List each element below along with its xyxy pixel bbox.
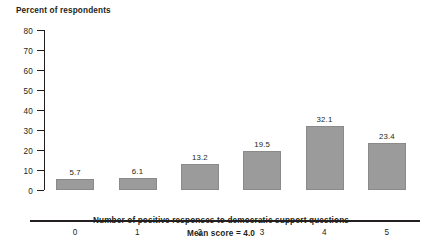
y-tick: 20 xyxy=(37,150,44,151)
y-tick: 70 xyxy=(37,50,44,51)
y-tick: 30 xyxy=(37,130,44,131)
bar-chart: Percent of respondents 01020304050607080… xyxy=(0,0,442,249)
y-tick-label: 0 xyxy=(28,186,33,195)
bar-value-label: 13.2 xyxy=(192,153,208,162)
y-tick-label: 60 xyxy=(23,66,33,75)
mean-score-note: Mean score = 4.0 xyxy=(0,229,442,238)
y-tick-label: 10 xyxy=(23,166,33,175)
y-axis-title: Percent of respondents xyxy=(16,6,111,15)
y-tick: 80 xyxy=(37,30,44,31)
y-axis-line xyxy=(44,30,45,190)
y-tick: 10 xyxy=(37,170,44,171)
y-tick-label: 80 xyxy=(23,26,33,35)
bar: 32.1 xyxy=(306,126,344,190)
bar: 23.4 xyxy=(368,143,406,190)
y-tick: 40 xyxy=(37,110,44,111)
y-tick: 50 xyxy=(37,90,44,91)
y-tick-label: 40 xyxy=(23,106,33,115)
y-tick-label: 50 xyxy=(23,86,33,95)
x-axis-title: Number of positive responses to democrat… xyxy=(0,216,442,225)
plot-area: 01020304050607080 5.76.113.219.532.123.4… xyxy=(44,30,418,190)
y-tick-label: 70 xyxy=(23,46,33,55)
bar-value-label: 6.1 xyxy=(132,167,143,176)
bar-value-label: 19.5 xyxy=(254,140,270,149)
y-tick: 0 xyxy=(37,190,44,191)
bar: 13.2 xyxy=(181,164,219,190)
bar-value-label: 32.1 xyxy=(317,115,333,124)
bar-value-label: 5.7 xyxy=(70,168,81,177)
bar-value-label: 23.4 xyxy=(379,132,395,141)
bar: 6.1 xyxy=(119,178,157,190)
y-tick-label: 20 xyxy=(23,146,33,155)
y-tick-label: 30 xyxy=(23,126,33,135)
bar: 19.5 xyxy=(243,151,281,190)
y-tick: 60 xyxy=(37,70,44,71)
bar: 5.7 xyxy=(56,179,94,190)
